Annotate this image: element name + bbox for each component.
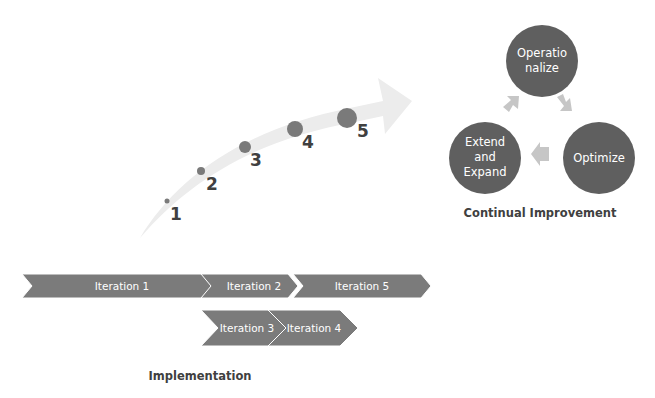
step-label-1: 1 [170,204,182,224]
iteration-4-label: Iteration 4 [287,322,342,334]
step-dot-4 [287,121,303,137]
extend-expand-label-3: Expand [463,165,506,179]
step-dot-5 [337,108,357,128]
growth-steps: 1 2 3 4 5 [165,108,369,224]
operationalize-label-1: Operatio [517,46,567,60]
continual-improvement-title: Continual Improvement [464,206,617,220]
step-label-5: 5 [357,121,369,141]
implementation-title: Implementation [149,369,252,383]
optimize-label: Optimize [573,151,625,165]
cycle-arrow-optimize-to-extend-icon [531,142,549,166]
extend-expand-label-1: Extend [465,135,505,149]
extend-expand-label-2: and [474,150,496,164]
step-label-4: 4 [302,132,314,152]
step-dot-2 [197,167,205,175]
cycle-arrow-extend-to-operationalize-icon [503,96,519,112]
iteration-3-label: Iteration 3 [220,322,275,334]
iteration-5-label: Iteration 5 [335,280,390,292]
step-label-3: 3 [250,150,262,170]
continual-improvement-cycle: Operatio nalize Optimize Extend and Expa… [449,25,635,220]
iteration-1-label: Iteration 1 [95,280,150,292]
implementation-timeline: Iteration 1 Iteration 2 Iteration 5 Iter… [22,274,431,383]
step-dot-1 [165,199,170,204]
iteration-2-label: Iteration 2 [227,280,282,292]
cycle-arrow-operationalize-to-optimize-icon [557,94,572,111]
step-label-2: 2 [206,174,218,194]
operationalize-label-2: nalize [525,61,559,75]
diagram-canvas: 1 2 3 4 5 Operatio nalize Optimize Exten… [0,0,655,398]
